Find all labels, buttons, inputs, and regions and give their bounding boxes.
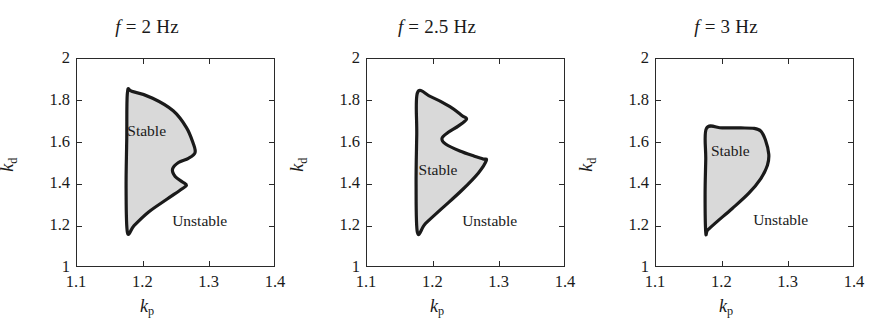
y-tick-label: 1.2: [30, 215, 70, 235]
y-tick-label: 1.2: [609, 215, 649, 235]
stable-region: [367, 59, 566, 268]
unstable-label: Unstable: [462, 212, 517, 230]
y-tick-label: 1.8: [609, 90, 649, 110]
x-tick-label: 1.4: [555, 272, 576, 292]
y-tick-label: 1: [30, 257, 70, 277]
panel-f2: f = 2HzStableUnstable1.11.21.31.411.21.4…: [0, 0, 294, 334]
x-axis-label: kp: [290, 296, 584, 319]
x-tick-label: 1.2: [132, 272, 153, 292]
panel-title: f = 2Hz: [0, 16, 294, 38]
y-tick-label: 2: [609, 48, 649, 68]
y-tick-label: 1.4: [30, 173, 70, 193]
x-tick-label: 1.3: [488, 272, 509, 292]
y-axis-label: kd: [0, 157, 21, 171]
stable-region: [656, 59, 855, 268]
x-axis-label: kp: [0, 296, 294, 319]
plot-area: StableUnstable: [366, 58, 565, 267]
x-tick-label: 1.3: [777, 272, 798, 292]
x-tick-label: 1.4: [265, 272, 286, 292]
y-tick-label: 1.6: [30, 132, 70, 152]
y-tick-label: 1.4: [320, 173, 360, 193]
unstable-label: Unstable: [753, 211, 808, 229]
plot-area: StableUnstable: [76, 58, 275, 267]
y-tick-label: 2: [30, 48, 70, 68]
panel-f2p5: f = 2.5HzStableUnstable1.11.21.31.411.21…: [290, 0, 584, 334]
x-tick-label: 1.2: [711, 272, 732, 292]
y-tick-label: 1.6: [320, 132, 360, 152]
y-tick-label: 1.6: [609, 132, 649, 152]
y-tick-label: 1.4: [609, 173, 649, 193]
y-axis-label: kd: [287, 157, 310, 171]
panel-title: f = 2.5Hz: [290, 16, 584, 38]
stable-label: Stable: [419, 161, 458, 179]
unstable-label: Unstable: [172, 212, 227, 230]
y-tick-label: 1: [320, 257, 360, 277]
y-tick-label: 1: [609, 257, 649, 277]
panel-title: f = 3Hz: [579, 16, 873, 38]
panel-f3: f = 3HzStableUnstable1.11.21.31.411.21.4…: [579, 0, 873, 334]
stability-region-figure: f = 2HzStableUnstable1.11.21.31.411.21.4…: [0, 0, 882, 334]
y-axis-label: kd: [576, 157, 599, 171]
y-tick-label: 1.8: [320, 90, 360, 110]
x-tick-label: 1.4: [844, 272, 865, 292]
stable-region: [77, 59, 276, 268]
y-tick-label: 1.8: [30, 90, 70, 110]
y-tick-label: 1.2: [320, 215, 360, 235]
y-tick-label: 2: [320, 48, 360, 68]
plot-area: StableUnstable: [655, 58, 854, 267]
x-tick-label: 1.3: [198, 272, 219, 292]
stable-label: Stable: [127, 122, 166, 140]
stable-label: Stable: [711, 142, 750, 160]
x-tick-label: 1.2: [422, 272, 443, 292]
x-axis-label: kp: [579, 296, 873, 319]
